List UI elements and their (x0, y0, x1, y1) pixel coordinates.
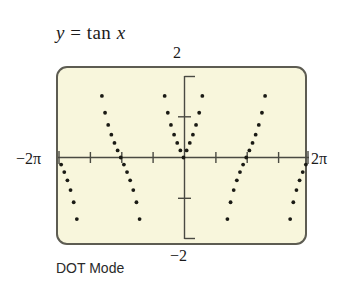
curve-dot (128, 178, 132, 182)
curve-dot (288, 217, 292, 221)
curve-dot (185, 149, 189, 153)
curve-dot (200, 94, 204, 98)
calculator-screen (56, 66, 307, 245)
tangent-branch (59, 163, 78, 221)
y-max-label: 2 (173, 44, 181, 62)
curve-dot (226, 217, 230, 221)
curve-dot (291, 200, 295, 204)
curve-dot (66, 178, 70, 182)
curve-dot (238, 170, 242, 174)
title-variable-x: x (117, 22, 126, 43)
curve-dot (182, 156, 186, 160)
curve-dot (304, 163, 308, 167)
x-min-label: −2π (16, 150, 41, 168)
curve-dot (260, 111, 264, 115)
curve-dot (194, 123, 198, 127)
title-variable-y: y (56, 22, 65, 43)
y-min-label: −2 (170, 247, 187, 265)
curve-dot (301, 170, 305, 174)
curve-dot (166, 111, 170, 115)
curve-dot (235, 178, 239, 182)
curve-dot (109, 133, 113, 137)
tangent-branch (163, 94, 204, 159)
title-function-name: tan (87, 22, 117, 43)
curve-dot (197, 111, 201, 115)
page-title: y = tan x (56, 22, 126, 44)
x-max-label: 2π (311, 150, 327, 168)
figure-root: y = tan x (0, 0, 345, 289)
mode-caption: DOT Mode (56, 260, 124, 276)
curve-dot (191, 133, 195, 137)
curve-dot (257, 123, 261, 127)
curve-dot (251, 141, 255, 145)
curve-dot (138, 217, 142, 221)
curve-dot (72, 200, 76, 204)
curve-dot (100, 94, 104, 98)
curve-dot (241, 163, 245, 167)
curve-dot (232, 188, 236, 192)
curve-dot (169, 123, 173, 127)
curve-dot (178, 149, 182, 153)
curve-dot (247, 149, 251, 153)
title-equals: = (65, 22, 87, 43)
curve-dot (75, 217, 79, 221)
curve-dot (122, 163, 126, 167)
curve-dot (106, 123, 110, 127)
curve-dot (116, 149, 120, 153)
tangent-branch (288, 163, 307, 221)
curve-dot (188, 141, 192, 145)
curve-dot (295, 188, 299, 192)
curve-dot (172, 133, 176, 137)
curve-dot (175, 141, 179, 145)
curve-dot (113, 141, 117, 145)
curve-dot (62, 170, 66, 174)
curve-dot (59, 163, 63, 167)
curve-dot (244, 156, 248, 160)
curve-dot (135, 200, 139, 204)
curve-dot (263, 94, 267, 98)
curve-dot (298, 178, 302, 182)
curve-dot (254, 133, 258, 137)
tangent-plot (58, 68, 309, 247)
curve-dot (229, 200, 233, 204)
curve-dot (69, 188, 73, 192)
curve-dot (103, 111, 107, 115)
curve-dot (125, 170, 129, 174)
curve-dot (163, 94, 167, 98)
curve-dot (131, 188, 135, 192)
curve-dot (119, 156, 123, 160)
